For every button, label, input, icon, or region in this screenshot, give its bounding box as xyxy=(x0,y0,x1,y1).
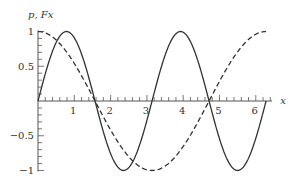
y-axis-label: p, Fx xyxy=(28,9,54,20)
x-tick-label: 6 xyxy=(252,105,258,116)
x-tick-label: 5 xyxy=(215,105,221,116)
x-tick-label: 4 xyxy=(179,105,185,116)
axis-labels: 10.5−0.5−1123456xp, Fx xyxy=(10,9,286,176)
x-tick-label: 2 xyxy=(106,105,112,116)
y-tick-label: −1 xyxy=(19,165,34,176)
x-axis-label: x xyxy=(280,95,286,106)
y-tick-label: 0.5 xyxy=(18,61,34,72)
x-tick-label: 1 xyxy=(70,105,76,116)
chart: 10.5−0.5−1123456xp, Fx xyxy=(0,0,298,187)
y-tick-label: −0.5 xyxy=(10,130,34,141)
chart-plot-area: 10.5−0.5−1123456xp, Fx xyxy=(0,0,298,187)
y-tick-label: 1 xyxy=(28,26,34,37)
x-tick-label: 3 xyxy=(143,105,149,116)
